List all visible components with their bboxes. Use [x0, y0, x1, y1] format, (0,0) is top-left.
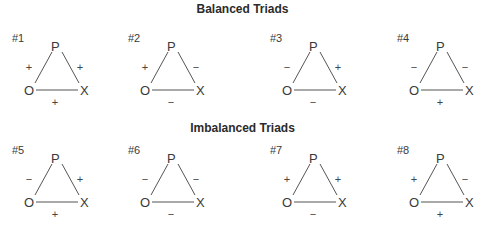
sign-px: − — [191, 174, 201, 185]
node-x: X — [338, 84, 347, 97]
node-o: O — [140, 196, 150, 209]
sign-ox: + — [50, 97, 60, 108]
sign-po: − — [140, 174, 150, 185]
triad-7: #7 P O X + + − — [270, 144, 380, 224]
node-x: X — [465, 84, 474, 97]
sign-ox: + — [435, 209, 445, 220]
node-o: O — [24, 196, 34, 209]
node-p: P — [167, 152, 176, 165]
node-p: P — [309, 40, 318, 53]
sign-px: + — [75, 174, 85, 185]
sign-po: − — [409, 62, 419, 73]
balanced-triads-title: Balanced Triads — [0, 2, 485, 16]
sign-po: + — [140, 62, 150, 73]
triad-3: #3 P O X − + − — [270, 32, 380, 112]
triad-2: #2 P O X + − − — [128, 32, 238, 112]
node-o: O — [140, 84, 150, 97]
node-o: O — [24, 84, 34, 97]
sign-ox: − — [308, 209, 318, 220]
node-x: X — [196, 84, 205, 97]
node-o: O — [282, 84, 292, 97]
node-x: X — [196, 196, 205, 209]
node-x: X — [80, 84, 89, 97]
triad-8: #8 P O X + − + — [397, 144, 485, 224]
node-x: X — [80, 196, 89, 209]
node-o: O — [282, 196, 292, 209]
node-p: P — [167, 40, 176, 53]
node-p: P — [309, 152, 318, 165]
imbalanced-triads-title: Imbalanced Triads — [0, 121, 485, 135]
triad-1: #1 P O X + + + — [12, 32, 122, 112]
sign-px: − — [460, 62, 470, 73]
sign-ox: − — [308, 97, 318, 108]
triad-6: #6 P O X − − − — [128, 144, 238, 224]
node-x: X — [338, 196, 347, 209]
sign-px: + — [75, 62, 85, 73]
sign-ox: − — [166, 209, 176, 220]
node-p: P — [436, 40, 445, 53]
sign-po: + — [282, 174, 292, 185]
node-p: P — [51, 152, 60, 165]
sign-po: + — [409, 174, 419, 185]
sign-px: + — [333, 174, 343, 185]
triad-5: #5 P O X − + + — [12, 144, 122, 224]
node-o: O — [409, 196, 419, 209]
sign-ox: − — [166, 97, 176, 108]
sign-ox: + — [50, 209, 60, 220]
sign-ox: + — [435, 97, 445, 108]
sign-po: + — [24, 62, 34, 73]
node-o: O — [409, 84, 419, 97]
sign-po: − — [24, 174, 34, 185]
node-p: P — [51, 40, 60, 53]
sign-px: − — [460, 174, 470, 185]
sign-px: + — [333, 62, 343, 73]
sign-po: − — [282, 62, 292, 73]
triad-4: #4 P O X − − + — [397, 32, 485, 112]
sign-px: − — [191, 62, 201, 73]
node-p: P — [436, 152, 445, 165]
node-x: X — [465, 196, 474, 209]
